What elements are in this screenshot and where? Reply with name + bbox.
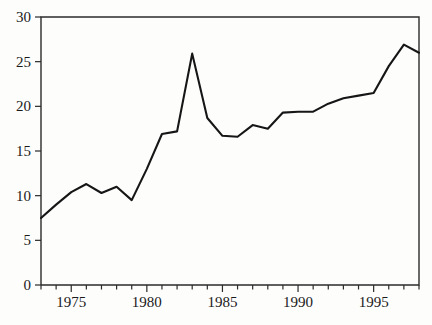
x-tick-label: 1995: [359, 294, 389, 310]
x-tick-label: 1975: [56, 294, 86, 310]
chart-background: [0, 0, 432, 325]
x-tick-label: 1990: [283, 294, 313, 310]
y-tick-label: 15: [16, 143, 31, 159]
x-tick-label: 1980: [132, 294, 162, 310]
y-tick-label: 25: [16, 54, 31, 70]
y-tick-label: 10: [16, 188, 31, 204]
x-tick-label: 1985: [207, 294, 237, 310]
y-tick-label: 20: [16, 98, 31, 114]
line-chart: 051015202530 19751980198519901995: [0, 0, 432, 325]
chart-canvas: 051015202530 19751980198519901995: [0, 0, 432, 325]
y-tick-label: 0: [24, 277, 32, 293]
y-tick-label: 30: [16, 9, 31, 25]
y-tick-label: 5: [24, 232, 32, 248]
